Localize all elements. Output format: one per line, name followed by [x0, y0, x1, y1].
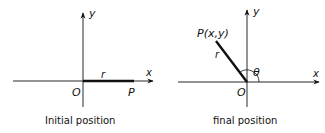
- caption-initial: Initial position: [45, 115, 115, 126]
- point-label: P: [128, 86, 135, 99]
- caption-final: final position: [213, 115, 277, 126]
- figure-initial: y x O r P Initial position: [13, 7, 153, 126]
- radius-segment: [216, 41, 247, 82]
- origin-label: O: [72, 86, 81, 99]
- angle-label: θ: [253, 66, 260, 79]
- diagram-canvas: y x O r P Initial position y x O r P(x,y…: [0, 0, 325, 133]
- x-axis-label: x: [312, 68, 319, 79]
- y-axis-label: y: [252, 5, 260, 18]
- y-axis-label: y: [88, 7, 96, 20]
- point-label: P(x,y): [197, 27, 229, 40]
- x-axis-label: x: [145, 67, 152, 78]
- origin-label: O: [237, 86, 246, 99]
- radius-label: r: [101, 69, 106, 80]
- radius-label: r: [215, 49, 220, 60]
- figure-final: y x O r P(x,y) θ final position: [178, 5, 319, 126]
